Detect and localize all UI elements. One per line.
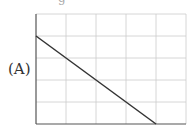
line-chart [0, 0, 192, 135]
